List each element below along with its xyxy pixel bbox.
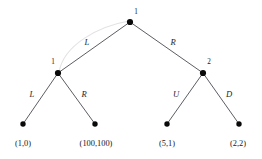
- terminal-node-2: [92, 121, 97, 126]
- payoff-label-1: (1,0): [15, 139, 31, 148]
- action-label-right-D: D: [225, 89, 233, 99]
- decision-node-root-player-1: [127, 19, 133, 25]
- decision-node-left-player-1: [55, 70, 61, 76]
- action-label-right-U: U: [173, 89, 180, 99]
- payoff-label-4: (2,2): [230, 139, 246, 148]
- player-label-root: 1: [134, 8, 138, 16]
- action-label-root-right: R: [169, 37, 176, 47]
- edge-root-to-left-node: [58, 22, 130, 73]
- edge-left-node-to-leaf-1: [23, 73, 58, 124]
- player-label-right: 2: [207, 58, 211, 66]
- action-label-left-L: L: [29, 89, 35, 99]
- terminal-node-1: [20, 121, 25, 126]
- action-label-left-R: R: [80, 89, 87, 99]
- payoff-label-3: (5,1): [159, 139, 175, 148]
- action-label-root-left: L: [84, 37, 90, 47]
- terminal-node-4: [236, 121, 241, 126]
- game-tree-figure: L R L R U D 1 1 2 (1,0) (100,100) (5,1) …: [0, 0, 262, 159]
- player-label-left: 1: [51, 58, 55, 66]
- edge-right-node-to-leaf-4: [203, 73, 239, 124]
- payoff-label-2: (100,100): [80, 139, 113, 148]
- terminal-node-3: [164, 121, 169, 126]
- decision-node-right-player-2: [200, 70, 206, 76]
- edge-root-to-right-node: [130, 22, 203, 73]
- edge-left-node-to-leaf-2: [58, 73, 95, 124]
